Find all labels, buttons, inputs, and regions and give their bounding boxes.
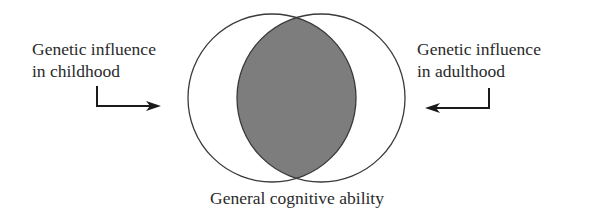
arrow-left-icon xyxy=(425,88,489,113)
adulthood-label-line2: in adulthood xyxy=(417,60,541,82)
overlap-region xyxy=(237,14,405,182)
cognitive-ability-label: General cognitive ability xyxy=(0,187,594,209)
arrow-right-icon xyxy=(97,86,161,111)
childhood-label-line2: in childhood xyxy=(32,60,156,82)
childhood-label-line1: Genetic influence xyxy=(32,38,156,60)
adulthood-label-line1: Genetic influence xyxy=(417,38,541,60)
childhood-label: Genetic influence in childhood xyxy=(32,38,156,82)
adulthood-label: Genetic influence in adulthood xyxy=(417,38,541,82)
